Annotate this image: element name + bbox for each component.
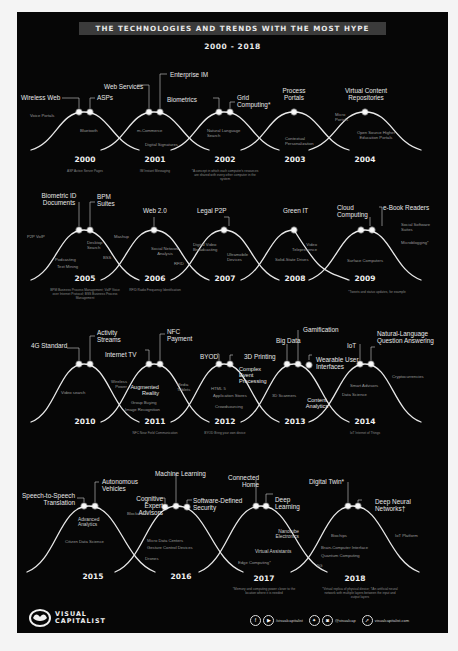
tech-label-small: Virtual Assistants xyxy=(255,549,291,554)
tech-label-small: Ultramobile Devices xyxy=(227,252,253,262)
tech-label-small: Voice Portals xyxy=(30,113,54,118)
tech-label: ASPs xyxy=(97,94,113,101)
tech-label-small: m-Commerce xyxy=(137,128,162,133)
tech-label-small: Open Source Higher Education Portals xyxy=(352,130,400,140)
tech-label-small: Video search xyxy=(61,390,85,395)
twitter-icon[interactable]: ✦ xyxy=(309,615,320,626)
tech-label: IoT xyxy=(347,342,356,349)
tech-label-small: P2P VoIP xyxy=(27,234,45,239)
footnote: NFC Near Field Communication xyxy=(120,431,190,435)
tech-label-small: Biochips xyxy=(331,533,347,538)
footnote: *Memory and computing power closer to th… xyxy=(229,587,299,595)
tech-label-small: Social Software Suites xyxy=(401,222,437,232)
tech-label-small: Smart Advisors xyxy=(350,383,378,388)
year-label: 2013 xyxy=(275,417,315,426)
year-label: 2010 xyxy=(65,417,105,426)
tech-label-small: Nanotube Electronics xyxy=(271,529,299,539)
tech-label-small: Bluetooth xyxy=(80,128,98,133)
year-label: 2004 xyxy=(345,155,385,164)
year-label: 2018 xyxy=(335,574,375,583)
tech-label: Cloud Computing xyxy=(337,204,373,218)
tech-label-small: Gesture Control Devices xyxy=(147,545,193,550)
year-label: 2007 xyxy=(205,274,245,283)
tech-label: Connected Home xyxy=(225,474,259,488)
tech-label: Natural-Language Question Answering xyxy=(377,330,445,344)
website-cursor-icon[interactable]: ➚ xyxy=(362,615,373,626)
year-label: 2014 xyxy=(345,417,385,426)
footnote: *Tweets and status updates, for example xyxy=(337,290,417,294)
tech-label: Autonomous Vehicles xyxy=(102,478,142,492)
tech-label: Internet TV xyxy=(105,351,137,358)
tech-label: Wireless Web xyxy=(21,94,60,101)
tech-label-small: Brain-Computer Interface xyxy=(321,545,368,550)
tech-label-small: Advanced Analytics xyxy=(78,517,106,527)
tech-label-small: Cryptocurrencies xyxy=(392,374,424,379)
footnote: BPM Business Process Management; VoIP Vo… xyxy=(50,288,120,300)
tech-label: 3D Printing xyxy=(244,353,276,360)
brand-line-2: CAPITALIST xyxy=(55,618,106,625)
footnote: ASP Active Server Pages xyxy=(50,169,120,173)
tech-label-small: Mashup xyxy=(114,234,129,239)
visual-capitalist-logo: VISUAL CAPITALIST xyxy=(29,609,129,629)
tech-label: Machine Learning xyxy=(155,470,206,477)
tech-label: Web Services xyxy=(104,83,143,90)
social-handle-1[interactable]: /visualcapitalist xyxy=(276,618,303,623)
tech-label-small: Video Telepresence xyxy=(289,242,317,252)
tech-label: NFC Payment xyxy=(167,328,197,342)
tech-label-small: Crowdsourcing xyxy=(215,404,243,409)
tech-label-small: Desktop Search xyxy=(87,240,111,250)
facebook-icon[interactable]: f xyxy=(250,615,261,626)
footnote: *A concept in which each computer's reso… xyxy=(190,169,260,181)
tech-label-small: Drones xyxy=(145,556,159,561)
tech-label: Legal P2P xyxy=(197,207,227,214)
tech-label: Speech-to-Speech Translation xyxy=(17,492,75,506)
footnote: *Virtual replica of physical device; †An… xyxy=(320,587,400,599)
social-handle-2[interactable]: @visualcap xyxy=(335,618,356,623)
website-link[interactable]: visualcapitalist.com xyxy=(375,618,409,623)
tech-label: BPM Suites xyxy=(97,193,125,207)
tech-label: Gamification xyxy=(303,326,339,333)
footnote: IoT Internet of Things xyxy=(330,431,400,435)
tech-label: Web 2.0 xyxy=(143,207,167,214)
tech-label: 4G Standard xyxy=(31,342,67,349)
year-label: 2000 xyxy=(65,155,105,164)
footnote: RFID Radio Frequency Identification xyxy=(120,288,190,292)
tech-label-small: Microblogging* xyxy=(401,240,429,245)
year-label: 2005 xyxy=(65,274,105,283)
tech-label-small: Micro Data Centers xyxy=(147,538,183,543)
tech-label: Biometrics xyxy=(167,96,197,103)
year-label: 2009 xyxy=(345,274,385,283)
tech-label-small: Surface Computers xyxy=(347,258,383,263)
tech-label: Wearable User Interfaces xyxy=(316,356,366,370)
youtube-icon[interactable]: ▶ xyxy=(263,615,274,626)
tech-label: e-Book Readers xyxy=(383,204,429,211)
tech-label-small: Citizen Data Science xyxy=(65,539,104,544)
footnote: IM Instant Messaging xyxy=(120,169,190,173)
year-label: 2001 xyxy=(135,155,175,164)
footnote: BYOD Bring your own device xyxy=(190,431,260,435)
tech-label-small: Natural Language Search xyxy=(207,128,241,138)
tech-label: Biometric ID Documents xyxy=(39,192,79,206)
tech-label: Deep Learning xyxy=(275,496,305,510)
year-label: 2015 xyxy=(73,572,113,581)
tech-label-small: Application Stores xyxy=(213,393,247,398)
instagram-icon[interactable]: ◙ xyxy=(322,615,333,626)
tech-label: Complex Event Processing xyxy=(239,366,271,384)
social-links: f ▶ /visualcapitalist ✦ ◙ @visualcap ➚ v… xyxy=(250,615,415,626)
year-label: 2008 xyxy=(275,274,315,283)
tech-label: BYOD xyxy=(200,353,218,360)
tech-label: Deep Neural Networks† xyxy=(375,498,421,512)
tech-label-small: Digital Signatures xyxy=(145,142,178,147)
year-label: 2006 xyxy=(135,274,175,283)
tech-label: Green IT xyxy=(283,207,308,214)
tech-label: Digital Twin* xyxy=(309,478,344,485)
tech-label-small: BSS xyxy=(103,255,111,260)
tech-label-small: IoT Platform xyxy=(395,533,418,538)
tech-label: Augmented Reality xyxy=(117,384,159,396)
tech-label-small: Image Recognition xyxy=(125,407,160,412)
tech-label-small: Quantum Computing xyxy=(321,553,360,558)
tech-label-small: RFID xyxy=(174,261,184,266)
logo-icon xyxy=(29,609,51,627)
tech-label-small: 3D Scanners xyxy=(272,393,296,398)
tech-label: Software-Defined Security xyxy=(193,497,247,511)
